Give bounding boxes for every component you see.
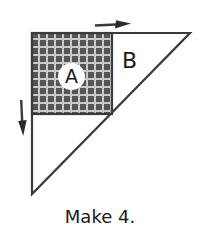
quilt-block-diagram: A B Make 4.	[0, 0, 200, 236]
arrow-right	[95, 20, 131, 28]
diagram-canvas	[0, 0, 200, 236]
patch-a-label-badge: A	[58, 63, 85, 90]
patch-a-label: A	[65, 67, 78, 86]
arrow-down	[18, 100, 26, 136]
arrow-down-head	[18, 120, 26, 136]
figure-caption: Make 4.	[0, 206, 200, 227]
patch-b-label: B	[122, 50, 137, 72]
arrow-right-head	[115, 20, 131, 28]
